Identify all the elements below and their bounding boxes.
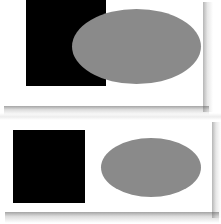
top-panel-gray-ellipse [72, 9, 201, 84]
bottom-panel-gray-ellipse [101, 138, 201, 197]
bottom-panel-shadow-bottom [5, 212, 219, 223]
panel-gutter [0, 113, 221, 120]
top-panel [0, 0, 203, 106]
figure-canvas [0, 0, 221, 224]
bottom-panel-shadow-right [212, 122, 221, 218]
top-panel-shadow-right [203, 2, 213, 112]
top-panel-shadow-bottom [4, 106, 209, 115]
bottom-panel-black-square [13, 130, 85, 203]
bottom-panel [0, 120, 212, 212]
